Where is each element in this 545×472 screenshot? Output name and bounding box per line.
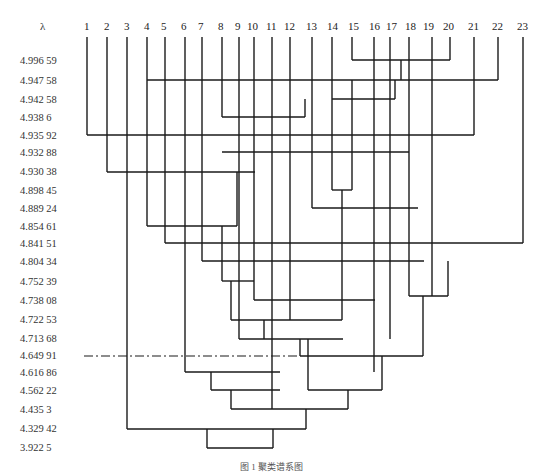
level-label: 4.935 92 (20, 130, 57, 141)
leaf-label: 20 (443, 20, 455, 32)
level-label: 4.942 58 (20, 94, 57, 105)
level-label: 3.922 5 (20, 442, 52, 453)
leaf-label: 10 (247, 20, 259, 32)
dendrogram-figure: λ 1 2 3 4 5 6 7 8 9 10 11 12 13 14 15 16… (0, 0, 545, 472)
level-label: 4.938 6 (20, 112, 52, 123)
level-label: 4.930 38 (20, 166, 57, 177)
leaf-label: 15 (348, 20, 360, 32)
leaf-label: 5 (161, 20, 167, 32)
leaf-label: 3 (124, 20, 130, 32)
leaf-labels: 1 2 3 4 5 6 7 8 9 10 11 12 13 14 15 16 1… (84, 20, 529, 32)
level-label: 4.616 86 (20, 367, 57, 378)
figure-caption: 图 1 聚类谱系图 (240, 461, 303, 472)
lambda-axis-label: λ (40, 20, 46, 32)
leaf-label: 2 (104, 20, 110, 32)
level-label: 4.889 24 (20, 203, 58, 214)
leaf-label: 8 (218, 20, 224, 32)
leaf-label: 23 (517, 20, 529, 32)
leaf-label: 22 (492, 20, 503, 32)
leaf-label: 4 (144, 20, 150, 32)
dendrogram-branches (87, 37, 523, 448)
level-labels: 4.996 59 4.947 58 4.942 58 4.938 6 4.935… (20, 55, 58, 453)
level-label: 4.996 59 (20, 55, 57, 66)
level-label: 4.738 08 (20, 295, 57, 306)
level-label: 4.947 58 (20, 75, 57, 86)
level-label: 4.649 91 (20, 350, 57, 361)
leaf-label: 16 (369, 20, 381, 32)
dendrogram-svg: λ 1 2 3 4 5 6 7 8 9 10 11 12 13 14 15 16… (0, 0, 545, 472)
leaf-label: 7 (198, 20, 204, 32)
level-label: 4.854 61 (20, 221, 57, 232)
level-label: 4.752 39 (20, 276, 57, 287)
leaf-label: 18 (405, 20, 417, 32)
leaf-label: 13 (306, 20, 318, 32)
leaf-label: 17 (386, 20, 398, 32)
leaf-label: 11 (266, 20, 277, 32)
level-label: 4.722 53 (20, 314, 57, 325)
level-label: 4.932 88 (20, 147, 57, 158)
level-label: 4.804 34 (20, 256, 58, 267)
leaf-label: 21 (468, 20, 479, 32)
leaf-label: 6 (181, 20, 187, 32)
leaf-label: 1 (84, 20, 90, 32)
level-label: 4.713 68 (20, 333, 57, 344)
level-label: 4.841 51 (20, 238, 57, 249)
level-label: 4.562 22 (20, 385, 57, 396)
leaf-label: 9 (235, 20, 241, 32)
level-label: 4.329 42 (20, 423, 57, 434)
level-label: 4.898 45 (20, 185, 57, 196)
leaf-label: 14 (327, 20, 339, 32)
level-label: 4.435 3 (20, 404, 52, 415)
leaf-label: 19 (423, 20, 435, 32)
leaf-label: 12 (284, 20, 295, 32)
